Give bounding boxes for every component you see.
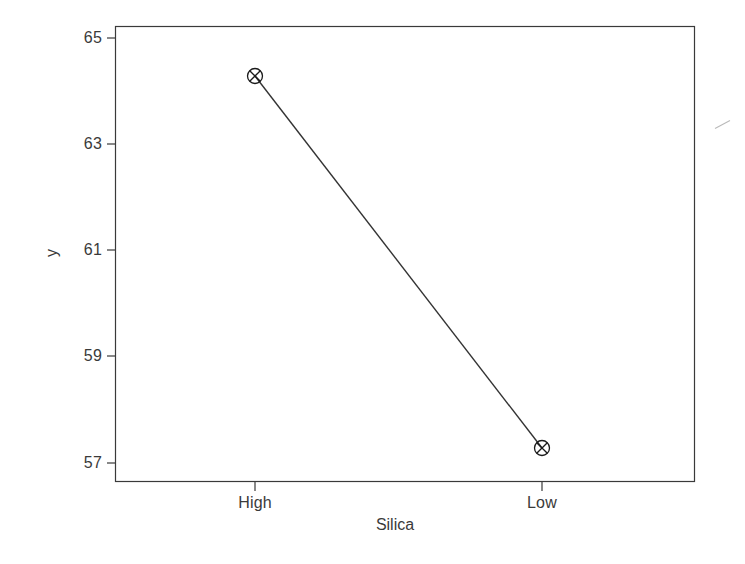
x-axis-ticks [255,482,542,491]
y-tick-label-61: 61 [58,241,102,259]
plot-frame [116,27,695,482]
x-axis-title: Silica [376,516,414,534]
y-tick-label-59: 59 [58,347,102,365]
y-tick-label-65: 65 [58,29,102,47]
x-tick-label-high: High [238,494,272,512]
x-tick-label-low: Low [527,494,557,512]
y-axis-ticks [107,38,115,463]
y-tick-label-57: 57 [58,454,102,472]
y-axis-title: y [43,249,61,257]
interaction-plot-figure: 65 63 61 59 57 High Low Silica y [0,0,745,564]
y-tick-label-63: 63 [58,135,102,153]
plot-canvas [0,0,745,564]
scan-artifact-mark [714,118,732,132]
